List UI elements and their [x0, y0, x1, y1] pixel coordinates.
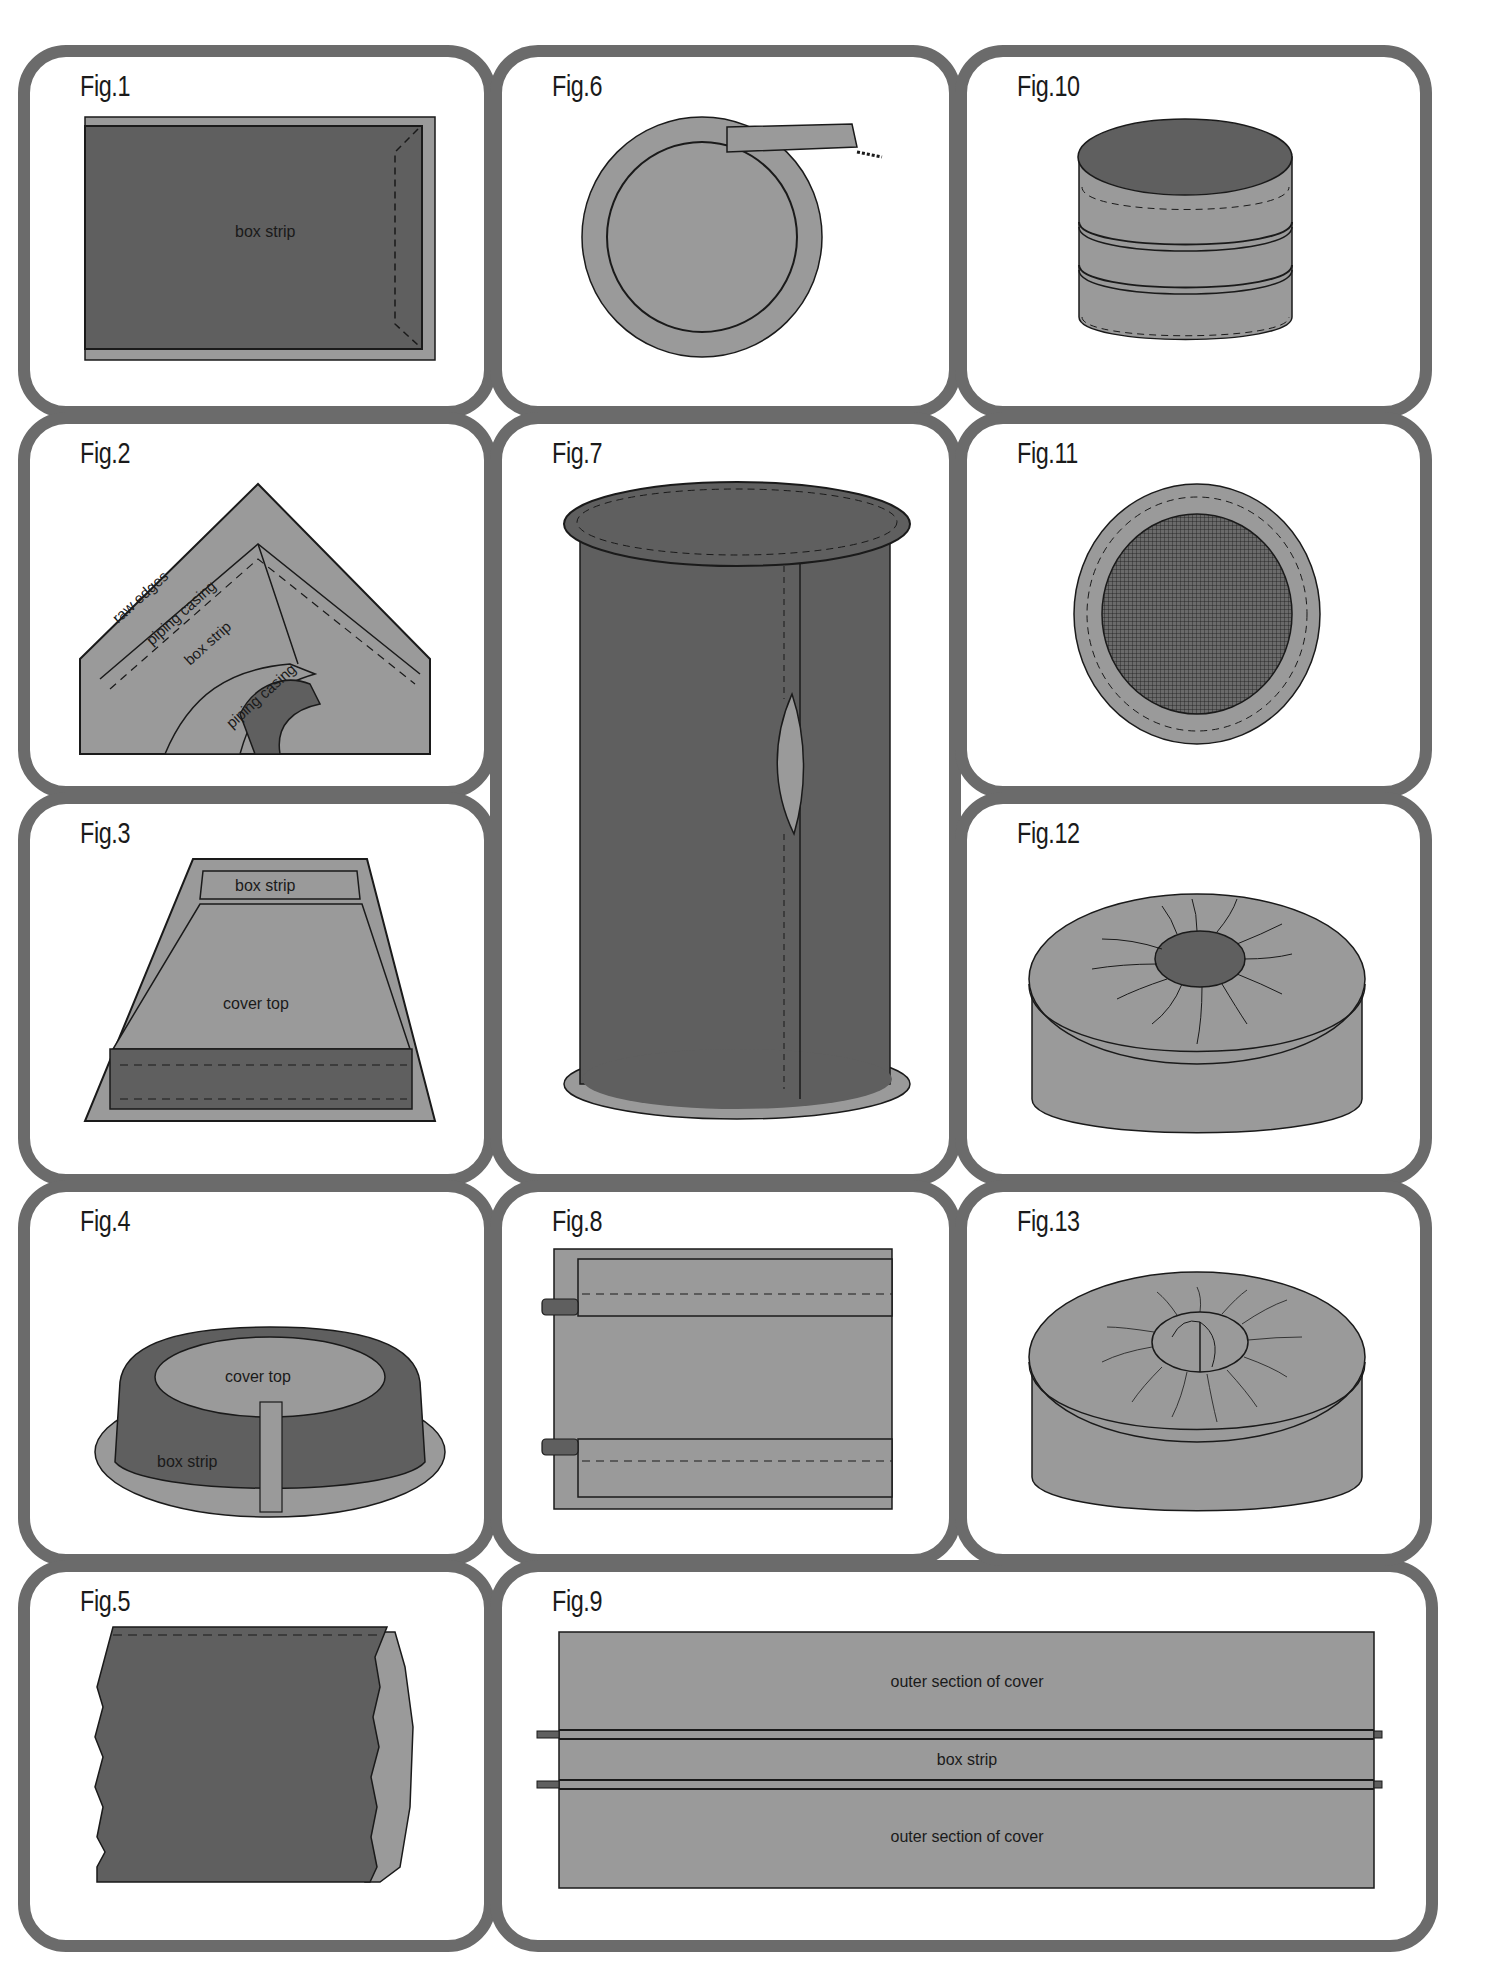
box-cover-tray-illustration: box strip cover top — [85, 859, 445, 1129]
figure-label: Fig.11 — [1017, 436, 1078, 470]
annotation-outer-section-bottom: outer section of cover — [891, 1828, 1045, 1845]
piping-corner-illustration: raw edges piping casing box strip piping… — [80, 484, 440, 754]
figure-label: Fig.4 — [80, 1204, 130, 1238]
circular-piping-illustration — [587, 112, 887, 372]
figure-panel-8: Fig.8 — [490, 1180, 961, 1566]
banded-cylinder-illustration — [1077, 117, 1307, 377]
annotation-box-strip: box strip — [235, 877, 296, 894]
figure-panel-3: Fig.3 box strip cover top — [18, 792, 496, 1186]
gathered-circle-illustration — [1072, 489, 1332, 749]
round-box-strip-illustration: cover top box strip — [95, 1302, 455, 1522]
annotation-cover-top: cover top — [223, 995, 289, 1012]
annotation-box-strip: box strip — [157, 1453, 218, 1470]
figure-panel-9: Fig.9 outer section of cover box strip o… — [490, 1560, 1438, 1952]
annotation-box-strip: box strip — [937, 1751, 998, 1768]
figure-panel-6: Fig.6 — [490, 45, 961, 418]
figure-label: Fig.8 — [552, 1204, 602, 1238]
figure-panel-13: Fig.13 — [955, 1180, 1432, 1566]
figure-panel-2: Fig.2 raw edges piping casing box strip … — [18, 412, 496, 798]
figure-label: Fig.5 — [80, 1584, 130, 1618]
figure-panel-11: Fig.11 — [955, 412, 1432, 798]
figure-label: Fig.9 — [552, 1584, 602, 1618]
drum-cushion-stitched-illustration — [1022, 1262, 1382, 1542]
figure-panel-1: Fig.1 box strip — [18, 45, 496, 418]
annotation-outer-section-top: outer section of cover — [891, 1673, 1045, 1690]
clipped-seam-illustration — [95, 1627, 455, 1907]
figure-label: Fig.3 — [80, 816, 130, 850]
figure-label: Fig.6 — [552, 69, 602, 103]
figure-panel-4: Fig.4 cover top box strip — [18, 1180, 496, 1566]
piped-strip-illustration — [542, 1249, 902, 1519]
cylinder-cover-illustration — [562, 479, 922, 1129]
figure-label: Fig.10 — [1017, 69, 1080, 103]
annotation-box-strip: box strip — [235, 223, 296, 240]
outer-section-strip-illustration: outer section of cover box strip outer s… — [537, 1632, 1417, 1912]
box-strip-illustration: box strip — [85, 117, 445, 377]
figure-label: Fig.12 — [1017, 816, 1080, 850]
drum-cushion-gathered-illustration — [1022, 884, 1382, 1164]
figure-label: Fig.2 — [80, 436, 130, 470]
figure-panel-5: Fig.5 — [18, 1560, 496, 1952]
figure-panel-7: Fig.7 — [490, 412, 961, 1186]
figure-label: Fig.7 — [552, 436, 602, 470]
figure-label: Fig.13 — [1017, 1204, 1080, 1238]
figure-panel-10: Fig.10 — [955, 45, 1432, 418]
figure-panel-12: Fig.12 — [955, 792, 1432, 1186]
annotation-cover-top: cover top — [225, 1368, 291, 1385]
figure-label: Fig.1 — [80, 69, 130, 103]
